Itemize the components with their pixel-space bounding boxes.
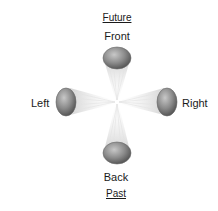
back-spotlight-icon [103, 142, 131, 164]
future-label: Future [103, 12, 132, 24]
front-label: Front [104, 30, 130, 42]
left-label: Left [31, 97, 49, 109]
direction-diagram: Future Front Left Right Back Past [0, 0, 218, 211]
right-spotlight-icon [157, 88, 177, 116]
past-label: Past [106, 188, 126, 200]
front-spotlight-icon [103, 47, 131, 69]
left-spotlight-icon [56, 88, 76, 116]
back-label: Back [104, 171, 128, 183]
beam-left [70, 88, 117, 115]
right-label: Right [182, 97, 208, 109]
